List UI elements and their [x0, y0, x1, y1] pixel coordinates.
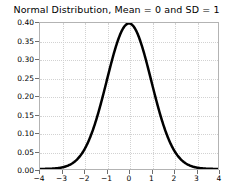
x-tick-label: 3 — [194, 174, 199, 183]
normal-distribution-curve — [40, 23, 218, 169]
y-tick-label: 0.00 — [17, 166, 34, 175]
y-tick-label: 0.15 — [17, 110, 34, 119]
x-tick-label: −4 — [33, 174, 44, 183]
chart-title: Normal Distribution, Mean = 0 and SD = 1 — [0, 4, 233, 15]
plot-area — [39, 22, 219, 170]
y-tick-label: 0.25 — [17, 73, 34, 82]
x-tick-label: 1 — [149, 174, 154, 183]
chart-figure: Normal Distribution, Mean = 0 and SD = 1… — [0, 0, 233, 191]
y-tick-label: 0.05 — [17, 147, 34, 156]
x-tick-label: −3 — [56, 174, 67, 183]
y-tick-label: 0.10 — [17, 129, 34, 138]
x-tick-label: 0 — [127, 174, 132, 183]
x-tick-label: −1 — [101, 174, 112, 183]
y-tick-label: 0.20 — [17, 92, 34, 101]
x-tick-label: −2 — [78, 174, 89, 183]
y-tick-label: 0.35 — [17, 36, 34, 45]
y-tick-label: 0.30 — [17, 55, 34, 64]
x-tick-label: 2 — [172, 174, 177, 183]
x-tick-label: 4 — [217, 174, 222, 183]
y-tick-label: 0.40 — [17, 18, 34, 27]
